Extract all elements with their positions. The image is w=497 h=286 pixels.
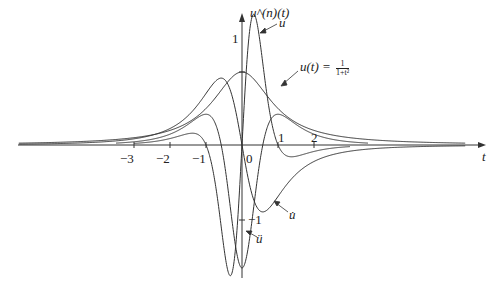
label-u-fraction: 11+t² xyxy=(336,60,349,77)
label-u-dddot: u⃛ xyxy=(279,16,296,29)
x-tick-label-1: 1 xyxy=(278,131,285,144)
x-tick-label-neg2: −2 xyxy=(156,152,170,165)
y-axis-arrow-icon xyxy=(239,13,245,22)
label-u-dot: u̇ xyxy=(289,208,296,221)
frac-den: 1+t² xyxy=(336,69,349,77)
x-tick-label-2: 2 xyxy=(311,131,318,144)
label-u-text: u(t) = xyxy=(300,59,334,74)
label-u: u(t) = 11+t² xyxy=(300,60,349,77)
plot-canvas xyxy=(0,0,497,286)
x-tick-label-0: 0 xyxy=(246,152,253,165)
axes xyxy=(18,13,486,278)
x-axis-label: t xyxy=(482,150,486,163)
y-tick-label-neg1: −1 xyxy=(248,213,262,226)
x-axis-arrow-icon xyxy=(478,142,486,148)
y-tick-label-1: 1 xyxy=(232,32,239,45)
x-tick-label-neg1: −1 xyxy=(192,152,206,165)
label-u-ddot: ü xyxy=(256,232,263,245)
x-tick-label-neg3: −3 xyxy=(120,152,134,165)
